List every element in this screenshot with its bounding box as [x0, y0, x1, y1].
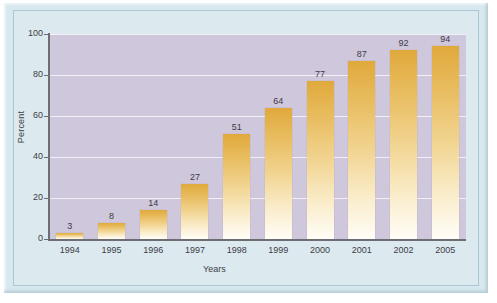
x-axis-tick-label: 2005 — [425, 245, 466, 255]
bar-value-label: 87 — [341, 49, 382, 59]
bar[interactable] — [98, 223, 125, 239]
x-axis-tick-label: 1999 — [258, 245, 299, 255]
x-axis-tick-label: 1994 — [49, 245, 90, 255]
bar-value-label: 64 — [258, 96, 299, 106]
bar[interactable] — [348, 61, 375, 239]
bar-group: 51 — [216, 34, 257, 239]
y-axis-tick-label: 100 — [1, 29, 43, 38]
x-axis-tick-label: 2001 — [341, 245, 382, 255]
bar[interactable] — [265, 108, 292, 239]
bar-group: 27 — [174, 34, 215, 239]
bar-group: 8 — [91, 34, 132, 239]
x-axis-tick-label: 1998 — [216, 245, 257, 255]
bar-group: 3 — [49, 34, 90, 239]
bar[interactable] — [390, 50, 417, 239]
bar[interactable] — [223, 134, 250, 239]
bar-group: 94 — [425, 34, 466, 239]
y-axis-title: Percent — [16, 97, 26, 157]
bar-value-label: 8 — [91, 211, 132, 221]
x-axis-tick-label: 2000 — [300, 245, 341, 255]
y-axis-tick — [44, 198, 49, 199]
bar[interactable] — [140, 210, 167, 239]
bar-value-label: 77 — [300, 69, 341, 79]
bar-value-label: 14 — [133, 198, 174, 208]
y-axis-tick-label: 80 — [1, 70, 43, 79]
chart-screenshot: 381427516477879294 020406080100 19941995… — [0, 0, 497, 303]
y-axis-tick — [44, 34, 49, 35]
x-axis-tick-label: 1997 — [174, 245, 215, 255]
y-axis-tick-label: 20 — [1, 193, 43, 202]
bar-group: 92 — [383, 34, 424, 239]
bar[interactable] — [432, 46, 459, 239]
bar-value-label: 94 — [425, 34, 466, 44]
y-axis-line — [48, 33, 50, 240]
x-axis-line — [48, 239, 466, 241]
y-axis-tick — [44, 157, 49, 158]
bar-value-label: 51 — [216, 122, 257, 132]
bar-value-label: 92 — [383, 38, 424, 48]
y-axis-tick-label: 0 — [1, 234, 43, 243]
y-axis-tick — [44, 116, 49, 117]
bar[interactable] — [181, 184, 208, 239]
y-axis-tick — [44, 75, 49, 76]
x-axis-tick-label: 2002 — [383, 245, 424, 255]
bar-group: 87 — [341, 34, 382, 239]
y-axis-tick — [44, 239, 49, 240]
x-axis-tick-label: 1996 — [133, 245, 174, 255]
bar-group: 14 — [133, 34, 174, 239]
x-axis-title: Years — [203, 264, 226, 274]
x-axis-tick-label: 1995 — [91, 245, 132, 255]
bar-value-label: 3 — [49, 221, 90, 231]
bar-group: 77 — [300, 34, 341, 239]
bar-value-label: 27 — [174, 172, 215, 182]
plot-area: 381427516477879294 — [49, 34, 466, 239]
bar[interactable] — [307, 81, 334, 239]
bar-group: 64 — [258, 34, 299, 239]
